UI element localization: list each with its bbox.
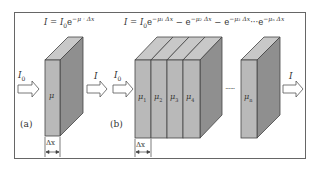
equation-a: I = I0e−μ · Δx [44, 16, 94, 29]
slab-n [241, 37, 280, 138]
mu-1-label: μ1 [138, 93, 146, 103]
input-arrow-a [18, 81, 39, 97]
caption-b: (b) [110, 120, 123, 129]
ellipsis: ······ [225, 85, 234, 93]
input-arrow-b [113, 81, 133, 97]
delta-x-label-a: Δx [46, 140, 55, 147]
input-intensity-label-b: I0 [114, 71, 121, 82]
equation-b: I = I0e−μ₁ Δx − e−μ₂ Δx − e−μ₃ Δx···e−μₙ… [124, 16, 284, 29]
slab-a [45, 37, 83, 136]
delta-x-label-b: Δx [136, 142, 145, 149]
caption-a: (a) [20, 120, 32, 129]
output-arrow-a [87, 81, 107, 97]
slab-stack-b [135, 37, 222, 138]
output-arrow-b [283, 81, 303, 97]
mu-n-label: μn [244, 93, 252, 103]
output-intensity-label-a: I [94, 72, 98, 81]
mu-4-label: μ4 [186, 93, 194, 103]
input-intensity-label-a: I0 [18, 71, 25, 82]
output-intensity-label-b: I [289, 72, 293, 81]
mu-3-label: μ3 [170, 93, 178, 103]
attenuation-diagram: I = I0e−μ · Δx I = I0e−μ₁ Δx − e−μ₂ Δx −… [0, 0, 317, 181]
mu-label-a: μ [49, 92, 54, 100]
mu-2-label: μ2 [154, 93, 162, 103]
